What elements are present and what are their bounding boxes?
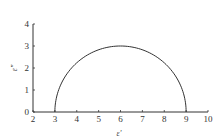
y-tick-label: 4 <box>25 19 30 29</box>
axes <box>33 24 208 112</box>
chart: 234567891001234 ε' ε" <box>0 0 224 140</box>
y-tick-label: 1 <box>25 85 30 95</box>
y-tick-label: 0 <box>25 107 30 117</box>
y-tick-label: 2 <box>25 63 30 73</box>
x-tick-label: 7 <box>140 114 145 124</box>
y-axis-label: ε" <box>10 64 19 71</box>
x-tick-label: 6 <box>118 114 123 124</box>
x-tick-label: 8 <box>162 114 167 124</box>
x-tick-label: 9 <box>184 114 189 124</box>
x-tick-label: 5 <box>96 114 101 124</box>
x-tick-label: 2 <box>31 114 36 124</box>
x-axis-label: ε' <box>117 129 122 138</box>
y-tick-label: 3 <box>25 41 30 51</box>
x-tick-label: 4 <box>75 114 80 124</box>
semicircle-curve <box>55 46 186 112</box>
x-tick-label: 3 <box>53 114 58 124</box>
tick-labels: 234567891001234 <box>25 19 214 124</box>
x-tick-label: 10 <box>204 114 214 124</box>
